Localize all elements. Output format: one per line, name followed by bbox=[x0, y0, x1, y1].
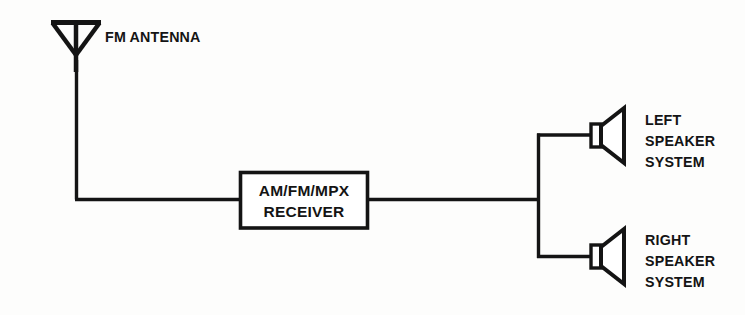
left-speaker-icon bbox=[591, 108, 624, 163]
receiver-label: AM/FM/MPX RECEIVER bbox=[240, 180, 368, 222]
left-speaker-label: LEFT SPEAKER SYSTEM bbox=[645, 109, 715, 172]
schematic-svg bbox=[0, 0, 745, 315]
antenna-left-arm bbox=[53, 23, 77, 55]
left-speaker-cone bbox=[601, 108, 624, 163]
fm-antenna-label: FM ANTENNA bbox=[105, 26, 201, 47]
antenna-to-receiver-wire bbox=[75, 60, 241, 200]
block-diagram: FM ANTENNA AM/FM/MPX RECEIVER LEFT SPEAK… bbox=[0, 0, 745, 315]
right-speaker-icon bbox=[591, 229, 624, 284]
antenna-right-arm bbox=[76, 23, 100, 55]
right-speaker-label: RIGHT SPEAKER SYSTEM bbox=[645, 229, 715, 292]
right-speaker-cone bbox=[601, 229, 624, 284]
